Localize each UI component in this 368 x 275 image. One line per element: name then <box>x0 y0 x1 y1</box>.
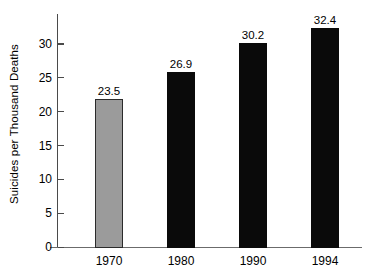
y-tick: 5 <box>57 213 64 214</box>
x-axis-label: 1990 <box>240 254 267 268</box>
bar: 26.9 <box>167 72 195 248</box>
bar-value-label: 26.9 <box>170 58 192 70</box>
y-tick-label: 5 <box>45 206 52 220</box>
y-tick-label: 10 <box>39 172 52 186</box>
y-tick-mark <box>58 145 64 146</box>
y-tick-mark <box>58 179 64 180</box>
bar-value-label: 30.2 <box>242 29 264 41</box>
y-tick-mark <box>58 43 64 44</box>
y-tick-label: 0 <box>45 240 52 254</box>
y-tick-mark <box>58 213 64 214</box>
y-tick: 25 <box>57 77 64 78</box>
y-tick-mark <box>58 77 64 78</box>
bar: 30.2 <box>239 43 267 248</box>
y-tick-label: 25 <box>39 71 52 85</box>
x-axis-label: 1970 <box>96 254 123 268</box>
bar-value-label: 32.4 <box>314 14 336 26</box>
y-tick: 10 <box>57 179 64 180</box>
plot-area: 051015202530 23.526.930.232.4 <box>57 14 362 248</box>
y-tick: 15 <box>57 145 64 146</box>
y-tick-label: 15 <box>39 139 52 153</box>
bar-value-label: 23.5 <box>98 85 120 97</box>
y-tick: 0 <box>57 247 64 248</box>
x-axis-label: 1994 <box>312 254 339 268</box>
y-tick-label: 30 <box>39 37 52 51</box>
y-tick: 30 <box>57 43 64 44</box>
bar: 32.4 <box>311 28 339 248</box>
y-tick-mark <box>58 111 64 112</box>
y-axis-title: Suicides per Thousand Deaths <box>2 0 26 248</box>
y-tick-label: 20 <box>39 105 52 119</box>
x-axis-label: 1980 <box>168 254 195 268</box>
y-axis-title-text: Suicides per Thousand Deaths <box>8 44 20 204</box>
bar: 23.5 <box>95 99 123 248</box>
y-tick: 20 <box>57 111 64 112</box>
y-tick-mark <box>58 247 64 248</box>
bar-chart-figure: Suicides per Thousand Deaths 05101520253… <box>0 0 368 275</box>
